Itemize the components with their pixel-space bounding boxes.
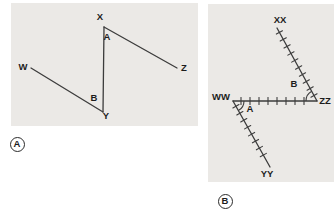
label-XX: XX [274,14,287,25]
label-ZZ: ZZ [319,95,331,106]
label-W: W [19,61,28,72]
segment-W-Y [31,68,103,112]
segment-X-Z [104,27,177,68]
label-Z: Z [181,62,187,73]
label-YY: YY [261,168,274,179]
label-Y: Y [103,110,110,121]
panel-b: XXZZWWYYBA [208,4,334,182]
panel-b-diagram: XXZZWWYYBA [208,4,334,182]
figure-two-panel-geometry: XAZWBY XXZZWWYYBA A B [0,0,335,213]
label-X: X [97,11,104,22]
label-A: A [247,103,254,114]
panel-b-badge-letter: B [222,196,229,206]
label-B: B [91,92,98,103]
panel-a-badge-letter: A [14,139,21,149]
panel-b-badge: B [218,194,233,209]
panel-a-diagram: XAZWBY [11,3,198,126]
panel-a: XAZWBY [11,3,198,126]
label-B: B [291,78,298,89]
angle-arc-B [306,91,312,101]
label-A: A [104,31,111,42]
panel-a-badge: A [10,137,25,152]
label-WW: WW [212,91,230,102]
